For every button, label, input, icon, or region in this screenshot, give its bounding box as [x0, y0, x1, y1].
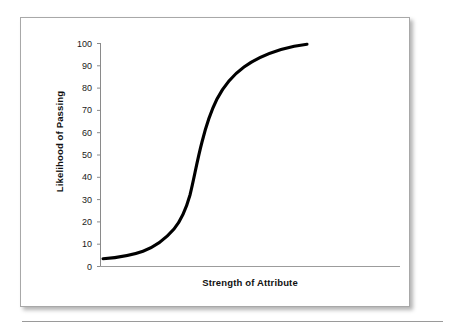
bottom-separator-rule	[22, 321, 443, 322]
x-axis-title: Strength of Attribute	[100, 277, 400, 288]
y-tick-label-0: 0	[66, 262, 92, 272]
y-tick-label-100: 100	[66, 39, 92, 49]
y-tick-label-70: 70	[66, 105, 92, 115]
y-tick-label-60: 60	[66, 128, 92, 138]
y-tick-label-40: 40	[66, 172, 92, 182]
y-tick-label-50: 50	[66, 150, 92, 160]
y-axis-title: Likelihood of Passing	[54, 57, 65, 227]
figure-panel: 100 90 80 70 60 50 40 30 20 10 0 Likelih…	[20, 17, 410, 307]
y-axis-ticks	[97, 44, 101, 267]
y-tick-label-30: 30	[66, 195, 92, 205]
y-tick-label-20: 20	[66, 217, 92, 227]
data-curve-series-0	[103, 44, 307, 259]
y-tick-label-90: 90	[66, 61, 92, 71]
y-tick-label-80: 80	[66, 83, 92, 93]
y-tick-label-10: 10	[66, 239, 92, 249]
chart-plot-area: 100 90 80 70 60 50 40 30 20 10 0 Likelih…	[21, 18, 411, 308]
